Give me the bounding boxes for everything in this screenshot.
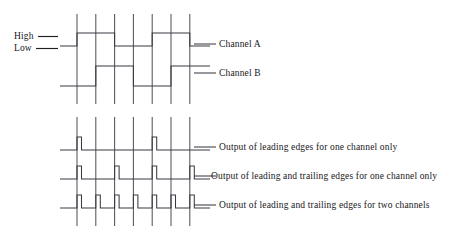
channel-a-trace: [60, 33, 210, 46]
output-2-trace: [60, 166, 210, 179]
output-1-trace: [60, 137, 210, 150]
signal-label-output-1: Output of leading edges for one channel …: [219, 142, 397, 152]
waveform-output-3: [60, 195, 210, 208]
guide-lines-lower: [77, 117, 190, 226]
channel-b-trace: [60, 66, 210, 86]
guide-lines-upper: [77, 14, 190, 104]
signal-label-output-2: Output of leading and trailing edges for…: [211, 171, 437, 181]
level-label-low: Low: [14, 43, 32, 53]
level-label-high: High: [14, 31, 34, 41]
waveform-output-1: [60, 137, 210, 150]
level-label-dashes: [36, 37, 58, 49]
output-3-trace: [60, 195, 210, 208]
waveform-channel-a: [60, 33, 210, 46]
waveform-output-2: [60, 166, 210, 179]
waveform-channel-b: [60, 66, 210, 86]
signal-label-channel-b: Channel B: [219, 68, 261, 78]
signal-label-output-3: Output of leading and trailing edges for…: [219, 200, 430, 210]
signal-label-channel-a: Channel A: [219, 39, 261, 49]
timing-diagram: High Low Channel A Channel B Output of l…: [0, 0, 465, 236]
